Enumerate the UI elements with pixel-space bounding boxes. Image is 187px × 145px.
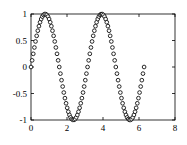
- data-point-marker: [51, 29, 55, 33]
- data-point-marker: [61, 85, 65, 89]
- data-point-marker: [85, 72, 89, 76]
- y-tick-label: 0: [23, 62, 28, 72]
- y-tick-label: 0.5: [16, 36, 28, 46]
- data-point-marker: [121, 101, 125, 105]
- data-point-marker: [108, 34, 112, 38]
- data-point-marker: [53, 40, 57, 44]
- data-point-marker: [60, 78, 64, 82]
- data-point-marker: [80, 96, 84, 100]
- data-point-marker: [140, 78, 144, 82]
- data-point-marker: [87, 59, 91, 63]
- data-point-marker: [94, 24, 98, 28]
- data-point-marker: [116, 78, 120, 82]
- data-point-marker: [107, 29, 111, 33]
- data-series-markers: [29, 12, 146, 121]
- x-tick-label: 4: [101, 123, 106, 133]
- y-tick-label: -0.5: [13, 89, 28, 99]
- data-point-marker: [133, 110, 137, 114]
- data-point-marker: [54, 46, 58, 50]
- data-point-marker: [37, 24, 41, 28]
- data-point-marker: [57, 65, 61, 69]
- data-point-marker: [48, 20, 52, 24]
- data-point-marker: [138, 91, 142, 95]
- data-point-marker: [29, 65, 33, 69]
- data-point-marker: [106, 24, 110, 28]
- data-point-marker: [83, 78, 87, 82]
- data-point-marker: [91, 34, 95, 38]
- data-point-marker: [137, 96, 141, 100]
- data-point-marker: [31, 52, 35, 56]
- data-point-marker: [33, 46, 37, 50]
- data-point-marker: [52, 34, 56, 38]
- data-point-marker: [56, 59, 60, 63]
- data-point-marker: [120, 96, 124, 100]
- data-point-marker: [122, 106, 126, 110]
- y-tick-labels: -1-0.500.51: [13, 9, 28, 125]
- data-point-marker: [65, 106, 69, 110]
- data-point-marker: [63, 96, 67, 100]
- data-point-marker: [34, 40, 38, 44]
- data-point-marker: [113, 59, 117, 63]
- data-point-marker: [119, 91, 123, 95]
- data-point-marker: [79, 101, 83, 105]
- plot-canvas: 02468 -1-0.500.51: [0, 0, 187, 145]
- data-point-marker: [90, 40, 94, 44]
- data-point-marker: [88, 52, 92, 56]
- data-point-marker: [77, 110, 81, 114]
- data-point-marker: [111, 46, 115, 50]
- chart-figure: 02468 -1-0.500.51: [0, 0, 187, 145]
- data-point-marker: [64, 101, 68, 105]
- y-tick-label: -1: [20, 115, 28, 125]
- data-point-marker: [82, 85, 86, 89]
- data-point-marker: [114, 65, 118, 69]
- data-point-marker: [59, 72, 63, 76]
- data-point-marker: [109, 40, 113, 44]
- data-point-marker: [30, 59, 34, 63]
- x-tick-label: 6: [137, 123, 142, 133]
- data-point-marker: [50, 24, 54, 28]
- data-point-marker: [112, 52, 116, 56]
- data-point-marker: [86, 65, 90, 69]
- x-tick-label: 2: [65, 123, 70, 133]
- x-tick-labels: 02468: [29, 123, 178, 133]
- x-tick-label: 0: [29, 123, 34, 133]
- data-point-marker: [81, 91, 85, 95]
- data-point-marker: [139, 85, 143, 89]
- y-tick-label: 1: [23, 9, 28, 19]
- data-point-marker: [62, 91, 66, 95]
- data-point-marker: [89, 46, 93, 50]
- data-point-marker: [55, 52, 59, 56]
- data-point-marker: [105, 20, 109, 24]
- data-point-marker: [35, 34, 39, 38]
- x-tick-label: 8: [173, 123, 178, 133]
- data-point-marker: [142, 65, 146, 69]
- data-point-marker: [92, 29, 96, 33]
- data-point-marker: [135, 101, 139, 105]
- data-point-marker: [36, 29, 40, 33]
- data-point-marker: [117, 85, 121, 89]
- data-point-marker: [141, 72, 145, 76]
- data-point-marker: [115, 72, 119, 76]
- data-point-marker: [134, 106, 138, 110]
- data-point-marker: [78, 106, 82, 110]
